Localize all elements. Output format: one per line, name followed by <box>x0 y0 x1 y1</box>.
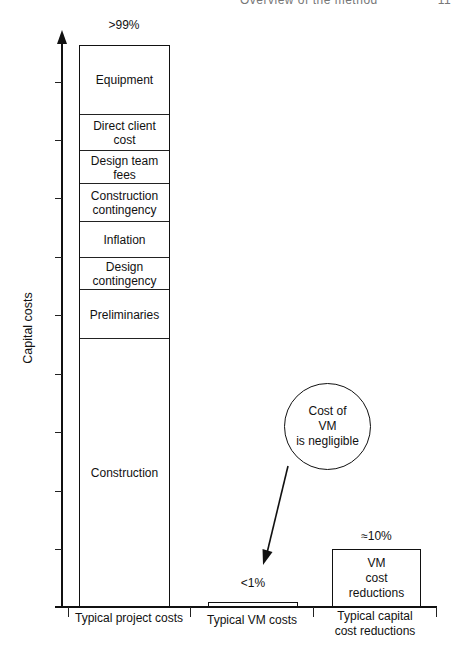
callout-arrow-icon <box>0 0 457 661</box>
